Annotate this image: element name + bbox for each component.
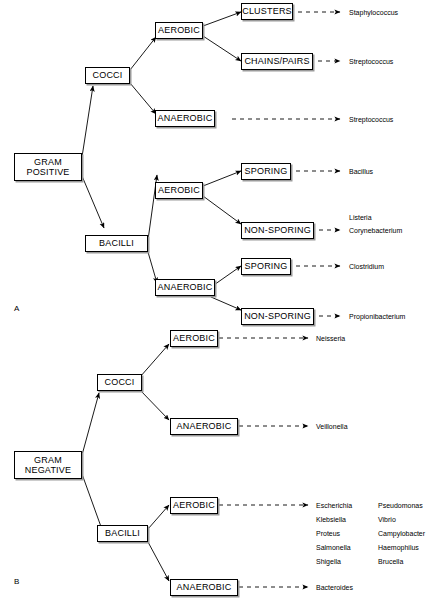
node-a-aerobic-sporing[interactable]: SPORING xyxy=(241,163,291,180)
node-b-bacilli-anaerobic[interactable]: ANAEROBIC xyxy=(170,579,238,596)
node-b-cocci-anaerobic[interactable]: ANAEROBIC xyxy=(170,418,238,435)
node-a-cocci[interactable]: COCCI xyxy=(85,67,130,84)
leaf-neisseria: Neisseria xyxy=(316,335,345,342)
leaf-bacillus: Bacillus xyxy=(349,168,373,175)
leaf-streptococcus-chains: Streptococcus xyxy=(349,58,393,65)
leaf-listeria: Listeria xyxy=(349,214,372,221)
leaf-vibrio: Vibrio xyxy=(378,516,425,523)
node-a-chains-pairs[interactable]: CHAINS/PAIRS xyxy=(241,53,313,70)
connector-lines xyxy=(0,0,436,604)
node-a-anaerobic-non-sporing[interactable]: NON-SPORING xyxy=(241,308,314,325)
panel-label-a: A xyxy=(14,305,19,313)
leaf-campylobacter: Campylobacter xyxy=(378,530,425,537)
leaf-veillonella: Veillonella xyxy=(316,423,348,430)
leaf-proteus: Proteus xyxy=(316,530,352,537)
leaf-corynebacterium: Corynebacterium xyxy=(349,227,402,234)
node-b-bacilli[interactable]: BACILLI xyxy=(97,525,148,542)
node-gram-negative[interactable]: GRAM NEGATIVE xyxy=(14,451,82,479)
node-a-anaerobic-sporing[interactable]: SPORING xyxy=(241,258,291,275)
node-a-bacilli-aerobic[interactable]: AEROBIC xyxy=(155,182,203,199)
node-gram-positive[interactable]: GRAM POSITIVE xyxy=(14,153,82,181)
leaf-streptococcus-anaerobic: Streptococcus xyxy=(349,116,393,123)
node-b-bacilli-aerobic[interactable]: AEROBIC xyxy=(170,497,218,514)
leaf-escherichia: Escherichia xyxy=(316,502,352,509)
leaf-gram-neg-bacilli-col2: Pseudomonas Vibrio Campylobacter Haemoph… xyxy=(378,502,425,565)
leaf-shigella: Shigella xyxy=(316,558,352,565)
leaf-pseudomonas: Pseudomonas xyxy=(378,502,425,509)
leaf-brucella: Brucella xyxy=(378,558,425,565)
node-b-cocci-aerobic[interactable]: AEROBIC xyxy=(170,330,218,347)
leaf-klebsiella: Klebsiella xyxy=(316,516,352,523)
leaf-propionibacterium: Propionibacterium xyxy=(349,313,405,320)
leaf-gram-neg-bacilli-col1: Escherichia Klebsiella Proteus Salmonell… xyxy=(316,502,352,565)
node-b-cocci[interactable]: COCCI xyxy=(97,374,142,391)
leaf-staphylococcus: Staphylococcus xyxy=(349,9,398,16)
leaf-bacteroides: Bacteroides xyxy=(316,584,353,591)
leaf-haemophilus: Haemophilus xyxy=(378,544,425,551)
gram-stain-flowchart: GRAM POSITIVE COCCI BACILLI AEROBIC ANAE… xyxy=(0,0,436,604)
leaf-clostridium: Clostridium xyxy=(349,263,384,270)
node-a-cocci-aerobic[interactable]: AEROBIC xyxy=(155,22,203,39)
leaf-salmonella: Salmonella xyxy=(316,544,352,551)
node-a-bacilli[interactable]: BACILLI xyxy=(85,235,148,252)
node-a-cocci-anaerobic[interactable]: ANAEROBIC xyxy=(155,110,215,127)
panel-label-b: B xyxy=(14,578,19,586)
node-a-clusters[interactable]: CLUSTERS xyxy=(241,3,293,20)
node-a-aerobic-non-sporing[interactable]: NON-SPORING xyxy=(241,222,314,239)
node-a-bacilli-anaerobic[interactable]: ANAEROBIC xyxy=(155,279,215,296)
